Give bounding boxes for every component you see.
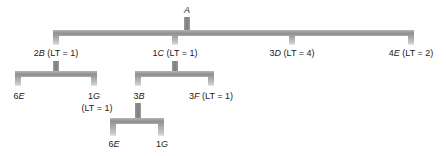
node-B-1G-leadtime: (LT = 1) [82,103,113,114]
connector-to-B [53,35,59,45]
connector-level1-bar [53,30,414,36]
node-2B-leadtime: (LT = 1) [47,48,78,58]
node-1C-item: C [158,48,165,58]
node-C-3B: 3B [133,91,144,102]
connector-A-stem [184,17,190,31]
node-4E: 4E (LT = 2) [389,48,433,59]
node-3B-6E: 6E [108,139,119,150]
node-4E-item: E [394,48,400,58]
connector-to-B-6E [15,76,21,86]
connector-to-C [172,35,178,45]
node-2B: 2B (LT = 1) [34,48,78,59]
node-C-3F: 3F (LT = 1) [189,91,233,102]
node-A-item: A [184,5,190,15]
connector-to-E [408,35,414,45]
node-C-3F-item: F [194,91,200,101]
node-B-1G-item: G [93,91,100,101]
node-2B-item: B [39,48,45,58]
node-C-3B-item: B [139,91,145,101]
connector-C-children-bar [135,71,214,77]
connector-3B-stem [135,103,141,119]
connector-to-3B-6E [110,123,116,136]
connector-to-3B-1G [158,123,164,136]
node-1C-leadtime: (LT = 1) [167,48,198,58]
node-4E-leadtime: (LT = 2) [402,48,433,58]
node-3D-item: D [275,48,282,58]
connector-B-children-bar [15,71,97,77]
node-B-6E-item: E [19,91,25,101]
connector-3B-children-bar [110,118,164,124]
node-B-6E: 6E [13,91,24,102]
connector-to-B-1G [91,76,97,86]
node-3B-6E-item: E [114,139,120,149]
connector-to-D [289,35,295,45]
product-structure-tree: A 2B (LT = 1) 1C (LT = 1) 3D (LT = 4) 4E… [0,0,446,156]
node-3B-1G-item: G [161,139,168,149]
node-C-3F-leadtime: (LT = 1) [202,91,233,101]
node-3D: 3D (LT = 4) [270,48,315,59]
node-A: A [184,5,190,16]
connector-to-C-3F [208,76,214,86]
node-3B-1G: 1G [156,139,168,150]
node-B-1G: 1G [88,91,100,102]
node-1C: 1C (LT = 1) [153,48,198,59]
node-3D-leadtime: (LT = 4) [284,48,315,58]
connector-to-C-3B [135,76,141,86]
